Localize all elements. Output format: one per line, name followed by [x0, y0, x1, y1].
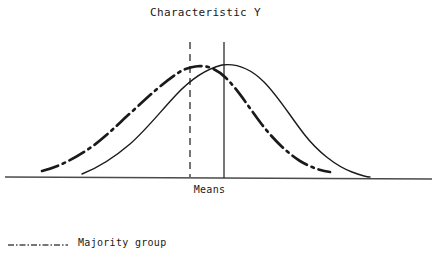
legend-item-label: Majority group	[78, 237, 167, 248]
page-title: Characteristic Y	[0, 6, 426, 19]
majority-group-curve	[42, 66, 330, 172]
legend-line-sample	[0, 236, 441, 256]
distribution-figure: Characteristic Y Means Majority group	[0, 0, 441, 262]
axis-label-means: Means	[0, 184, 430, 195]
plot-area	[0, 0, 441, 262]
minority-group-curve	[82, 65, 370, 177]
